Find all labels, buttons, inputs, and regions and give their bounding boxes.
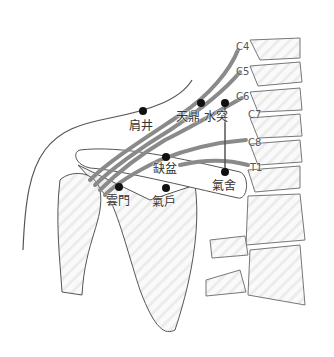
acupoint-dot bbox=[139, 107, 147, 115]
nerve-root-label: C7 bbox=[248, 110, 261, 120]
acupoint-dot bbox=[115, 183, 123, 191]
acupoint-label: 水突 bbox=[204, 111, 228, 123]
anatomy-illustration bbox=[0, 0, 334, 357]
nerve-root-label: C4 bbox=[236, 42, 249, 52]
nerve-root-label: C8 bbox=[248, 138, 261, 148]
acupoint-label: 氣戶 bbox=[152, 196, 176, 208]
acupoint-label: 氣舍 bbox=[212, 180, 236, 192]
acupoint-dot bbox=[162, 153, 170, 161]
acupoint-dot bbox=[162, 184, 170, 192]
nerve-root-label: C6 bbox=[236, 92, 249, 102]
humerus bbox=[58, 173, 101, 295]
acupoint-label: 缺盆 bbox=[153, 163, 177, 175]
nerve-root-label: C5 bbox=[236, 67, 249, 77]
acupoint-label: 雲門 bbox=[106, 195, 130, 207]
acupoint-dot bbox=[197, 99, 205, 107]
acupoint-label: 天鼎 bbox=[176, 111, 200, 123]
acupoint-dot bbox=[221, 99, 229, 107]
acupoint-label: 肩井 bbox=[129, 120, 153, 132]
anatomy-diagram: 肩井天鼎水突缺盆雲門氣戶氣舍C4C5C6C7C8T1 bbox=[0, 0, 334, 357]
nerve-root-label: T1 bbox=[250, 163, 262, 173]
acupoint-dot bbox=[221, 168, 229, 176]
